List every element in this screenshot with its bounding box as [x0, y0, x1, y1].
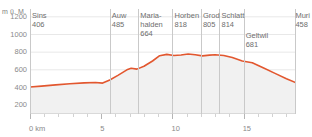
waypoint-rule-horben: [172, 9, 173, 114]
x-tick-mark: [30, 114, 31, 119]
waypoint-label-maria-halden: Maria-halden664: [140, 11, 163, 39]
y-tick-label: 1200: [0, 13, 27, 21]
x-tick-mark-minor: [201, 114, 202, 117]
x-tick-mark-minor: [158, 114, 159, 117]
waypoint-label-geltwil: Geltwil681: [246, 31, 269, 49]
waypoint-label-grod: Grod805: [203, 11, 220, 29]
x-tick-mark-minor: [272, 114, 273, 117]
x-tick-mark-minor: [229, 114, 230, 117]
waypoint-label-muri: Muri458: [295, 11, 310, 29]
waypoint-name: Horben: [174, 11, 199, 20]
x-tick-mark-minor: [115, 114, 116, 117]
waypoint-label-schlatt: Schlatt814: [221, 11, 244, 29]
x-tick-mark: [172, 114, 173, 119]
x-tick-mark-minor: [144, 114, 145, 117]
x-tick-label: 10: [171, 124, 179, 133]
waypoint-elevation: 406: [32, 20, 47, 29]
waypoint-elevation: 485: [112, 20, 127, 29]
waypoint-name: Maria-: [140, 11, 163, 20]
x-tick-label: 5: [100, 124, 104, 133]
waypoint-label-sins: Sins406: [32, 11, 47, 29]
waypoint-rule-grod: [201, 9, 202, 114]
x-tick-mark: [244, 114, 245, 119]
x-tick-mark: [101, 114, 102, 119]
x-tick-mark-minor: [258, 114, 259, 117]
waypoint-elevation: 664: [140, 29, 163, 38]
waypoint-label-auw: Auw485: [112, 11, 127, 29]
waypoint-name: Geltwil: [246, 31, 269, 40]
x-tick-mark-minor: [286, 114, 287, 117]
waypoint-name: Grod: [203, 11, 220, 20]
waypoint-elevation: 805: [203, 20, 220, 29]
y-tick-label: 800: [0, 48, 27, 56]
y-tick-label: 200: [0, 101, 27, 109]
elevation-profile-chart: m ü. M. 12001000800600400200 0 km51015 S…: [0, 0, 312, 137]
waypoint-name: halden: [140, 20, 163, 29]
x-tick-mark-minor: [73, 114, 74, 117]
waypoint-elevation: 458: [295, 20, 310, 29]
x-tick-mark-minor: [87, 114, 88, 117]
waypoint-name: Schlatt: [221, 11, 244, 20]
waypoint-name: Muri: [295, 11, 310, 20]
x-tick-label: 15: [243, 124, 251, 133]
waypoint-elevation: 814: [221, 20, 244, 29]
x-tick-label: 0 km: [29, 124, 45, 133]
x-tick-mark-minor: [44, 114, 45, 117]
waypoint-label-horben: Horben818: [174, 11, 199, 29]
waypoint-name: Sins: [32, 11, 47, 20]
waypoint-rule-sins: [30, 9, 31, 114]
x-tick-mark-minor: [215, 114, 216, 117]
y-tick-label: 1000: [0, 31, 27, 39]
x-tick-mark-minor: [58, 114, 59, 117]
waypoint-rule-maria-halden: [138, 9, 139, 114]
y-tick-label: 600: [0, 66, 27, 74]
y-tick-label: 400: [0, 84, 27, 92]
waypoint-elevation: 681: [246, 40, 269, 49]
waypoint-name: Auw: [112, 11, 127, 20]
x-tick-mark-minor: [130, 114, 131, 117]
waypoint-elevation: 818: [174, 20, 199, 29]
x-tick-mark-minor: [187, 114, 188, 117]
